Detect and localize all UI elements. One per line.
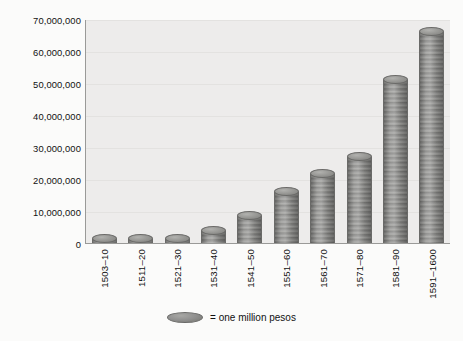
x-axis-tick: 1521–30 bbox=[162, 247, 192, 307]
coin-stack-top bbox=[92, 234, 117, 243]
coin-stack-bar bbox=[237, 207, 262, 244]
x-axis-tick: 1591–1600 bbox=[417, 247, 447, 307]
x-axis-tick-label: 1551–60 bbox=[281, 249, 292, 288]
coin-stack-body bbox=[347, 157, 372, 244]
x-axis-tick-label: 1581–90 bbox=[390, 249, 401, 288]
coin-stack-body bbox=[310, 174, 335, 244]
coin-stack-bar bbox=[165, 230, 190, 244]
x-axis-tick-label: 1591–1600 bbox=[426, 249, 437, 299]
y-axis-tick-label: 40,000,000 bbox=[3, 111, 81, 122]
y-axis-tick-label: 50,000,000 bbox=[3, 79, 81, 90]
coin-stack-chart: 010,000,00020,000,00030,000,00040,000,00… bbox=[0, 0, 463, 341]
coin-stack-bar bbox=[274, 183, 299, 244]
x-axis-tick: 1531–40 bbox=[198, 247, 228, 307]
x-axis-tick: 1561–70 bbox=[308, 247, 338, 307]
chart-legend: = one million pesos bbox=[0, 312, 463, 323]
coin-stack-bar bbox=[128, 230, 153, 244]
coin-icon bbox=[167, 312, 203, 323]
coin-stack-top bbox=[310, 169, 335, 178]
coin-stack-top bbox=[274, 187, 299, 196]
x-axis-line bbox=[85, 243, 450, 244]
x-axis-tick: 1503–10 bbox=[89, 247, 119, 307]
gridline bbox=[86, 20, 450, 21]
gridline bbox=[86, 52, 450, 53]
x-axis-tick-label: 1561–70 bbox=[317, 249, 328, 288]
x-axis-tick-label: 1521–30 bbox=[172, 249, 183, 288]
coin-stack-top bbox=[201, 226, 226, 235]
coin-stack-top bbox=[128, 234, 153, 243]
x-axis-tick: 1541–50 bbox=[235, 247, 265, 307]
coin-stack-bar bbox=[310, 165, 335, 244]
coin-stack-top bbox=[383, 75, 408, 84]
x-axis-tick: 1511–20 bbox=[126, 247, 156, 307]
y-axis-tick-label: 20,000,000 bbox=[3, 175, 81, 186]
y-axis-line bbox=[85, 20, 86, 244]
y-axis-tick-label: 60,000,000 bbox=[3, 47, 81, 58]
coin-stack-top bbox=[419, 27, 444, 36]
coin-stack-bar bbox=[92, 230, 117, 244]
coin-stack-body bbox=[383, 80, 408, 244]
x-axis-tick: 1551–60 bbox=[271, 247, 301, 307]
plot-area bbox=[86, 20, 450, 244]
x-axis-tick: 1581–90 bbox=[380, 247, 410, 307]
coin-stack-bar bbox=[347, 148, 372, 244]
coin-stack-bar bbox=[419, 23, 444, 244]
y-axis-tick-label: 0 bbox=[3, 239, 81, 250]
y-axis-tick-label: 30,000,000 bbox=[3, 143, 81, 154]
x-axis-tick-label: 1503–10 bbox=[99, 249, 110, 288]
x-axis-tick-label: 1571–80 bbox=[354, 249, 365, 288]
coin-stack-body bbox=[237, 216, 262, 244]
coin-stack-body bbox=[274, 192, 299, 244]
legend-label: = one million pesos bbox=[210, 312, 296, 323]
y-axis-labels: 010,000,00020,000,00030,000,00040,000,00… bbox=[0, 0, 81, 341]
x-axis-tick-label: 1531–40 bbox=[208, 249, 219, 288]
y-axis-tick-label: 10,000,000 bbox=[3, 207, 81, 218]
x-axis-tick-label: 1541–50 bbox=[244, 249, 255, 288]
y-axis-tick-label: 70,000,000 bbox=[3, 15, 81, 26]
coin-stack-bar bbox=[383, 71, 408, 244]
coin-stack-body bbox=[419, 32, 444, 244]
x-axis-tick: 1571–80 bbox=[344, 247, 374, 307]
coin-stack-bar bbox=[201, 222, 226, 244]
coin-stack-top bbox=[165, 234, 190, 243]
x-axis-tick-label: 1511–20 bbox=[135, 249, 146, 287]
